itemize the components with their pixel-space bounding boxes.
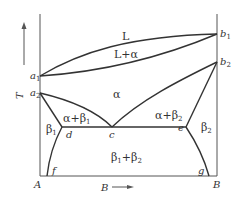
region-beta1-beta2: β1+β2: [111, 151, 142, 165]
point-d: d: [66, 129, 72, 140]
composition-arrow-icon: [112, 185, 134, 189]
region-beta1: β1: [46, 123, 57, 137]
y-axis-label: T: [14, 91, 25, 99]
region-alpha: α: [113, 88, 121, 101]
point-f: f: [51, 165, 58, 176]
x-axis-label: B: [100, 182, 108, 193]
region-alpha-beta1: α+β1: [63, 112, 90, 126]
point-b1: b1: [220, 28, 231, 41]
component-b-label: B: [212, 179, 220, 190]
point-a2: a2: [30, 87, 40, 100]
point-c: c: [109, 129, 115, 140]
region-liquid: L: [122, 30, 130, 43]
point-g: g: [198, 165, 204, 176]
region-liquid-alpha: L+α: [114, 48, 139, 61]
point-b2: b2: [220, 56, 231, 69]
point-e: e: [178, 122, 184, 133]
temperature-arrow-icon: [22, 22, 27, 65]
region-alpha-beta2: α+β2: [155, 109, 182, 123]
region-beta2: β2: [201, 121, 212, 135]
point-a1: a1: [30, 70, 40, 83]
phase-diagram: T B A B a1 a2 b1 b2 c d e f g L L+α α α+…: [0, 0, 239, 198]
alpha-beta2-solvus: [186, 62, 217, 127]
component-a-label: A: [33, 179, 41, 190]
